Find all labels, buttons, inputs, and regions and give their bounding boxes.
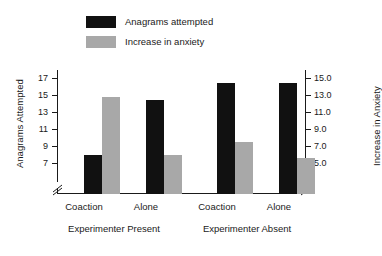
bar-anxiety-alone-absent [297, 158, 315, 194]
left-axis-title: Anagrams Attempted [14, 79, 25, 168]
right-ticklabel-7: 7.0 [314, 142, 327, 151]
right-tick-9 [306, 129, 311, 130]
right-tick-13 [306, 95, 311, 96]
legend-item-anagrams-attempted: Anagrams attempted [86, 14, 213, 30]
legend-label-increase-in-anxiety: Increase in anxiety [125, 36, 204, 48]
legend-item-increase-in-anxiety: Increase in anxiety [86, 34, 213, 50]
right-ticklabel-15: 15.0 [314, 74, 332, 83]
left-ticklabel-11: 11 [39, 125, 48, 134]
bar-anxiety-alone-present [164, 155, 182, 194]
left-tick-17 [52, 78, 57, 79]
bar-anagrams-coaction-absent [217, 83, 235, 194]
right-ticklabel-9: 9.0 [314, 125, 327, 134]
right-ticklabel-11: 11.0 [314, 108, 331, 117]
bar-anxiety-coaction-present [102, 97, 120, 194]
bar-anagrams-alone-absent [279, 83, 297, 194]
left-tick-9 [52, 146, 57, 147]
left-tick-13 [52, 112, 57, 113]
left-ticklabel-9: 9 [43, 142, 48, 151]
left-ticklabel-13: 13 [38, 108, 48, 117]
right-tick-11 [306, 112, 311, 113]
group-label-experimenter-present: Experimenter Present [44, 223, 184, 234]
bar-anxiety-coaction-absent [235, 142, 253, 194]
category-label-alone-present: Alone [110, 201, 182, 212]
left-tick-15 [52, 95, 57, 96]
legend-swatch-icon-dark [86, 16, 116, 28]
left-tick-7 [52, 163, 57, 164]
right-tick-7 [306, 146, 311, 147]
right-ticklabel-5: 5.0 [314, 159, 327, 168]
bar-anagrams-coaction-present [84, 155, 102, 195]
legend-label-anagrams-attempted: Anagrams attempted [125, 16, 213, 28]
plot-area [58, 70, 303, 194]
group-label-experimenter-absent: Experimenter Absent [177, 223, 317, 234]
right-ticklabel-13: 13.0 [314, 91, 332, 100]
left-ticklabel-15: 15 [38, 91, 48, 100]
category-label-alone-absent: Alone [243, 201, 315, 212]
left-ticklabel-17: 17 [38, 74, 48, 83]
left-tick-11 [52, 129, 57, 130]
bar-anagrams-alone-present [146, 100, 164, 194]
left-ticklabel-7: 7 [43, 159, 48, 168]
chart-legend: Anagrams attempted Increase in anxiety [86, 14, 213, 54]
right-axis-title: Increase in Anxiety [371, 86, 382, 166]
right-tick-15 [306, 78, 311, 79]
legend-swatch-icon-light [86, 36, 116, 48]
